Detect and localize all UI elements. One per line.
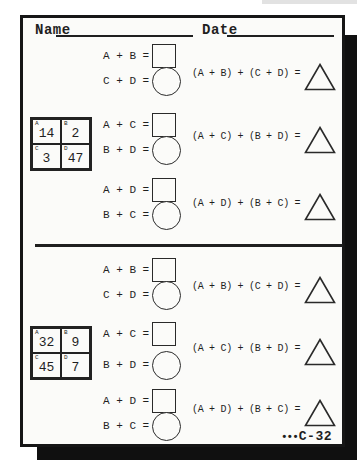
cell-letter: D [64, 355, 68, 361]
cell-letter: B [64, 330, 68, 336]
combined-equation-row: (A + D) + (B + C) = [192, 397, 336, 429]
combined-equation-row: (A + C) + (B + D) = [192, 124, 336, 156]
grid-cell-d: D 7 [61, 353, 90, 378]
answer-triangle[interactable] [304, 399, 336, 427]
equation-label: A + D = [103, 395, 152, 407]
number-grid-2: A 32 B 9 C 45 D 7 [30, 326, 92, 380]
equation-label: B + C = [103, 420, 152, 432]
answer-box-square[interactable] [152, 389, 176, 413]
name-fill-line[interactable] [56, 35, 193, 37]
answer-box-circle[interactable] [152, 412, 181, 441]
cell-value: 32 [39, 335, 55, 350]
cell-value: 47 [68, 151, 84, 166]
answer-triangle[interactable] [304, 63, 336, 91]
section-divider [35, 244, 343, 247]
combined-equation-row: (A + B) + (C + D) = [192, 61, 336, 93]
grid-cell-c: C 45 [32, 353, 61, 378]
answer-box-square[interactable] [152, 113, 176, 137]
grid-cell-b: B 9 [61, 328, 90, 353]
cell-letter: B [64, 121, 68, 127]
mini-equation-row: C + D = [103, 66, 181, 96]
answer-box-circle[interactable] [152, 67, 181, 96]
grid-cell-b: B 2 [61, 119, 90, 144]
grid-cell-c: C 3 [32, 144, 61, 169]
answer-box-circle[interactable] [152, 201, 181, 230]
answer-triangle[interactable] [304, 126, 336, 154]
equation-label: A + B = [103, 264, 152, 276]
combined-equation-row: (A + B) + (C + D) = [192, 274, 336, 306]
cell-letter: A [35, 330, 39, 336]
cell-letter: D [64, 146, 68, 152]
footer: ••• C-32 [281, 429, 332, 444]
answer-box-circle[interactable] [152, 281, 181, 310]
equation-label: A + C = [103, 119, 152, 131]
grid-cell-a: A 14 [32, 119, 61, 144]
mini-equation-row: B + C = [103, 411, 181, 441]
cell-value: 3 [43, 151, 51, 166]
combined-equation-row: (A + D) + (B + C) = [192, 191, 336, 223]
cell-value: 45 [39, 360, 55, 375]
scan-artifact-bar [262, 0, 357, 4]
answer-box-square[interactable] [152, 322, 176, 346]
cell-letter: A [35, 121, 39, 127]
cell-value: 14 [39, 126, 55, 141]
answer-triangle[interactable] [304, 193, 336, 221]
equation-label: B + C = [103, 209, 152, 221]
cell-value: 2 [72, 126, 80, 141]
answer-box-square[interactable] [152, 258, 176, 282]
mini-equation-row: A + C = [103, 319, 176, 349]
combined-equation-label: (A + B) + (C + D) = [192, 281, 300, 292]
combined-equation-label: (A + C) + (B + D) = [192, 343, 300, 354]
combined-equation-label: (A + C) + (B + D) = [192, 131, 300, 142]
footer-dots-icon: ••• [281, 431, 298, 443]
equation-label: A + B = [103, 50, 152, 62]
equation-label: B + D = [103, 144, 152, 156]
cell-letter: C [35, 355, 39, 361]
answer-box-circle[interactable] [152, 136, 181, 165]
answer-triangle[interactable] [304, 338, 336, 366]
cell-value: 7 [72, 360, 80, 375]
combined-equation-row: (A + C) + (B + D) = [192, 336, 336, 368]
equation-label: B + D = [103, 359, 152, 371]
grid-cell-d: D 47 [61, 144, 90, 169]
equation-label: C + D = [103, 289, 152, 301]
cell-letter: C [35, 146, 39, 152]
date-fill-line[interactable] [227, 35, 334, 37]
worksheet-page: Name Date A 14 B 2 C 3 D 47 A + B = C + … [20, 15, 345, 447]
mini-equation-row: C + D = [103, 280, 181, 310]
mini-equation-row: B + C = [103, 200, 181, 230]
number-grid-1: A 14 B 2 C 3 D 47 [30, 117, 92, 171]
combined-equation-label: (A + B) + (C + D) = [192, 68, 300, 79]
cell-value: 9 [72, 335, 80, 350]
answer-box-square[interactable] [152, 44, 176, 68]
answer-box-circle[interactable] [152, 351, 181, 380]
grid-cell-a: A 32 [32, 328, 61, 353]
equation-label: A + D = [103, 184, 152, 196]
mini-equation-row: B + D = [103, 350, 181, 380]
combined-equation-label: (A + D) + (B + C) = [192, 404, 300, 415]
equation-label: A + C = [103, 328, 152, 340]
combined-equation-label: (A + D) + (B + C) = [192, 198, 300, 209]
equation-label: C + D = [103, 75, 152, 87]
answer-triangle[interactable] [304, 276, 336, 304]
mini-equation-row: B + D = [103, 135, 181, 165]
page-code: C-32 [299, 429, 332, 444]
answer-box-square[interactable] [152, 178, 176, 202]
